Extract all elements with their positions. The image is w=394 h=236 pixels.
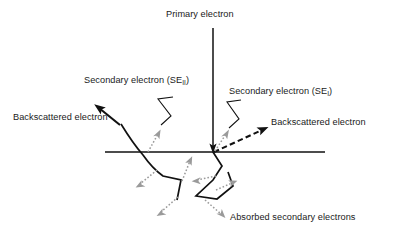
se1-subscript: I — [327, 90, 329, 97]
label-backscattered-electron-left: Backscattered electron — [13, 112, 108, 122]
se-absorbed-left-shaft — [161, 197, 178, 212]
se1-text-prefix: Secondary electron (SE — [229, 86, 327, 96]
secondary-electron-arrow-absorbed-left — [157, 197, 178, 216]
se2-surface-shaft — [148, 134, 158, 152]
scattering-path-left — [121, 124, 181, 200]
se-left-down-arrowhead — [136, 180, 146, 187]
secondary-electron-arrow-se2-surface — [148, 130, 161, 152]
se2-subscript: II — [182, 79, 186, 86]
secondary-electron-arrow-absorbed-right — [205, 200, 225, 218]
label-absorbed-secondary-electrons: Absorbed secondary electrons — [230, 212, 356, 222]
se2-text-suffix: ) — [186, 75, 189, 85]
se-absorbed-left-arrowhead — [157, 208, 167, 216]
se1-arrowhead — [221, 130, 229, 140]
se2-text-prefix: Secondary electron (SE — [84, 75, 182, 85]
primary-electron-beam — [209, 28, 216, 154]
se-internal-up-shaft — [182, 161, 190, 181]
label-backscattered-electron-right: Backscattered electron — [271, 117, 366, 127]
se-left-horizontal-arrowhead — [192, 177, 201, 184]
se2-label-pointer-zigzag — [158, 97, 173, 125]
se-absorbed-right-shaft — [205, 200, 221, 214]
backscattered-electron-right-arrow — [214, 127, 269, 152]
electron-interaction-diagram: Primary electron Secondary electron (SEI… — [0, 0, 394, 236]
se-absorbed-right-arrowhead — [216, 209, 225, 218]
label-secondary-electron-se1: Secondary electron (SEI) — [229, 86, 332, 96]
secondary-electron-arrow-left-down — [136, 170, 157, 188]
label-primary-electron: Primary electron — [166, 9, 234, 19]
se1-text-suffix: ) — [329, 86, 332, 96]
se1-shaft — [215, 134, 226, 151]
secondary-electron-arrow-internal-up — [182, 156, 192, 181]
se2-surface-arrowhead — [153, 130, 160, 140]
se-internal-up-arrowhead — [185, 156, 192, 166]
se1-label-pointer-zigzag — [227, 100, 241, 128]
se-left-down-shaft — [140, 170, 157, 184]
label-secondary-electron-se2: Secondary electron (SEII) — [84, 75, 189, 85]
scattering-path-right — [196, 152, 233, 199]
secondary-electron-arrow-right-down — [216, 180, 237, 190]
